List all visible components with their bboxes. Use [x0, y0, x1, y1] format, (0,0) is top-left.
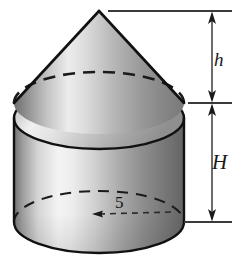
radius-value-label: 5	[115, 194, 124, 211]
cone-body	[14, 11, 184, 134]
cone-solid	[14, 11, 184, 134]
solid-diagram	[0, 0, 238, 256]
cylinder-height-label: H	[212, 152, 227, 173]
cone-height-label: h	[214, 50, 224, 69]
figure-canvas: h H 5	[0, 0, 238, 256]
